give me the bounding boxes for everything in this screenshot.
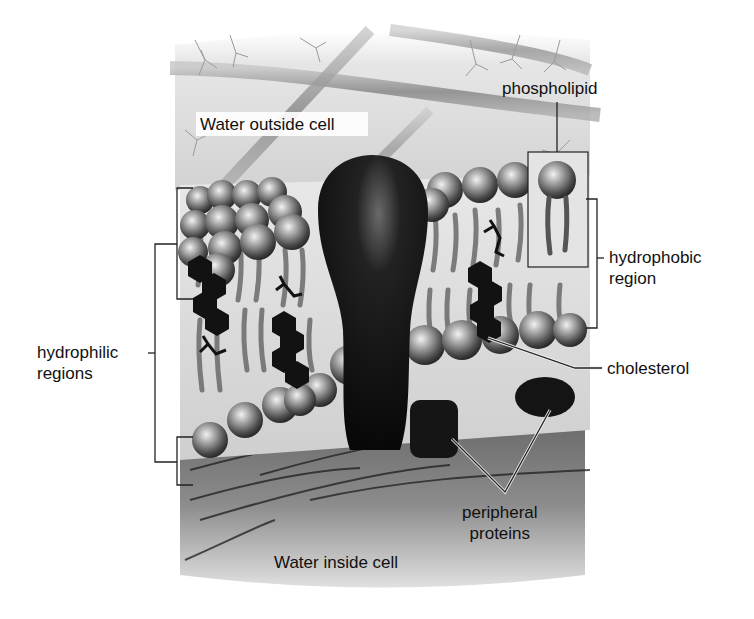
label-hydrophobic-region: hydrophobic region	[609, 247, 702, 289]
peripheral-protein-left	[410, 400, 458, 458]
phospholipid-box	[528, 152, 588, 267]
label-phospholipid: phospholipid	[502, 78, 597, 99]
peripheral-protein-right	[515, 377, 575, 417]
label-peripheral-proteins: peripheral proteins	[462, 502, 538, 544]
label-water-inside: Water inside cell	[274, 552, 398, 573]
label-water-outside: Water outside cell	[200, 114, 334, 135]
cell-membrane-diagram: Water outside cell phospholipid hydropho…	[0, 0, 754, 619]
label-cholesterol: cholesterol	[607, 358, 689, 379]
label-hydrophilic-regions: hydrophilic regions	[37, 342, 118, 384]
membrane-illustration	[0, 0, 754, 619]
hydrophilic-bracket-outer	[155, 244, 177, 462]
